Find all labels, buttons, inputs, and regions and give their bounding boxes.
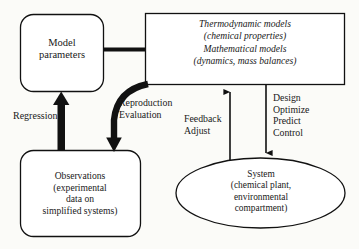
models-box-line-1: Thermodynamic models: [146, 18, 344, 30]
node-models-box-label: Thermodynamic models (chemical propertie…: [146, 18, 344, 67]
system-line-4: compartment): [205, 203, 317, 214]
system-line-1: System: [205, 169, 317, 180]
observations-line-2: (experimental: [21, 182, 139, 194]
diagram-canvas: Model parameters Thermodynamic models (c…: [0, 0, 359, 249]
system-line-2: (chemical plant,: [205, 180, 317, 191]
regression-line-1: Regression: [13, 110, 57, 122]
feedback-line-1: Feedback: [184, 113, 222, 125]
edge-label-feedback-adjust: Feedback Adjust: [184, 113, 222, 136]
edge-label-reproduction-evaluation: Reproduction Evaluation: [119, 97, 172, 120]
reproduction-line-1: Reproduction: [119, 97, 172, 109]
model-parameters-line-1: Model: [20, 37, 104, 49]
models-box-line-4: (dynamics, mass balances): [146, 55, 344, 67]
observations-line-3: data on: [21, 193, 139, 205]
observations-line-4: simplified systems): [21, 205, 139, 217]
design-line-2: Optimize: [273, 104, 309, 116]
node-model-parameters-label: Model parameters: [20, 37, 104, 61]
design-line-3: Predict: [273, 115, 309, 127]
edge-label-design-optimize-predict-control: Design Optimize Predict Control: [273, 92, 309, 138]
observations-line-1: Observations: [21, 170, 139, 182]
node-observations-label: Observations (experimental data on simpl…: [21, 170, 139, 217]
system-line-3: environmental: [205, 192, 317, 203]
models-box-line-3: Mathematical models: [146, 43, 344, 55]
design-line-1: Design: [273, 92, 309, 104]
feedback-line-2: Adjust: [184, 125, 222, 137]
edge-label-regression: Regression: [13, 110, 57, 122]
model-parameters-line-2: parameters: [20, 49, 104, 61]
design-line-4: Control: [273, 127, 309, 139]
reproduction-line-2: Evaluation: [119, 109, 172, 121]
models-box-line-2: (chemical properties): [146, 30, 344, 42]
node-system-label: System (chemical plant, environmental co…: [205, 169, 317, 214]
